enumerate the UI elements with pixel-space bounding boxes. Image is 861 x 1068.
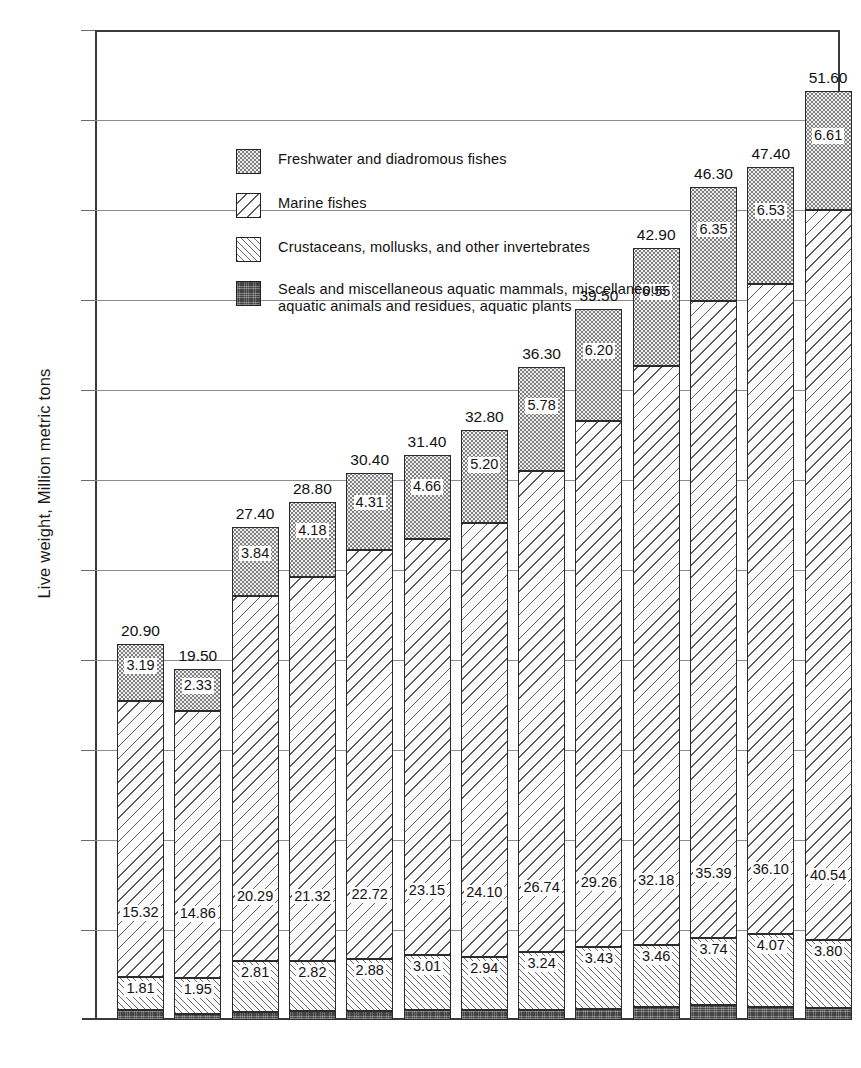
y-axis-tick <box>81 30 95 31</box>
bar-segment-freshwater[interactable]: 4.18 <box>289 502 336 577</box>
bar-column[interactable]: 3.8040.546.6151.601964 <box>805 91 852 1020</box>
bar-segment-freshwater[interactable]: 5.78 <box>518 367 565 471</box>
segment-value-label: 2.33 <box>175 677 220 694</box>
bar-total-label: 31.40 <box>397 433 458 451</box>
bar-segment-marine[interactable]: 20.29 <box>232 596 279 961</box>
bar-segment-marine[interactable]: 24.10 <box>461 523 508 957</box>
bar-segment-misc[interactable] <box>575 1009 622 1020</box>
bar-segment-freshwater[interactable]: 2.33 <box>174 669 221 711</box>
bar-segment-freshwater[interactable]: 3.84 <box>232 527 279 596</box>
legend-swatch-freshwater <box>236 149 261 174</box>
bar-segment-crustaceans[interactable]: 2.82 <box>289 961 336 1012</box>
bar-segment-crustaceans[interactable]: 2.81 <box>232 961 279 1012</box>
segment-value-label: 5.78 <box>519 397 564 414</box>
legend-item-freshwater: Freshwater and diadromous fishes <box>236 149 706 183</box>
segment-value-label: 6.61 <box>806 127 851 144</box>
y-axis-tick <box>81 300 95 301</box>
segment-value-label: 14.86 <box>175 905 220 922</box>
bar-column[interactable]: 3.4329.266.2039.501960 <box>575 309 622 1020</box>
bar-segment-freshwater[interactable]: 3.19 <box>117 644 164 701</box>
bar-segment-marine[interactable]: 26.74 <box>518 471 565 952</box>
bar-segment-crustaceans[interactable]: 3.01 <box>404 955 451 1009</box>
segment-value-label: 5.20 <box>462 456 507 473</box>
bar-column[interactable]: 2.8120.293.8427.401954 <box>232 527 279 1020</box>
bar-column[interactable]: 3.0123.154.6631.401957 <box>404 455 451 1020</box>
bar-total-label: 27.40 <box>225 505 286 523</box>
bar-segment-marine[interactable]: 14.86 <box>174 711 221 978</box>
bar-segment-misc[interactable] <box>690 1005 737 1020</box>
bar-segment-crustaceans[interactable]: 3.80 <box>805 940 852 1008</box>
bar-segment-crustaceans[interactable]: 3.43 <box>575 947 622 1009</box>
bar-segment-marine[interactable]: 15.32 <box>117 701 164 977</box>
bar-segment-crustaceans[interactable]: 2.88 <box>346 959 393 1011</box>
segment-value-label: 32.18 <box>634 872 679 889</box>
bar-segment-misc[interactable] <box>404 1010 451 1020</box>
bar-segment-freshwater[interactable]: 4.31 <box>346 473 393 551</box>
bar-segment-marine[interactable]: 22.72 <box>346 550 393 959</box>
y-axis-line <box>95 30 97 1020</box>
bar-segment-freshwater[interactable]: 5.20 <box>461 430 508 524</box>
bar-segment-misc[interactable] <box>117 1010 164 1020</box>
bar-segment-marine[interactable]: 36.10 <box>747 284 794 934</box>
y-axis-label: Live weight, Million metric tons <box>35 204 54 764</box>
bar-segment-marine[interactable]: 29.26 <box>575 421 622 948</box>
bar-segment-misc[interactable] <box>518 1010 565 1020</box>
segment-value-label: 3.01 <box>405 958 450 975</box>
bar-segment-crustaceans[interactable]: 1.95 <box>174 978 221 1013</box>
legend-label: Seals and miscellaneous aquatic mammals,… <box>278 281 698 314</box>
segment-value-label: 3.80 <box>806 943 851 960</box>
bar-segment-crustaceans[interactable]: 2.94 <box>461 957 508 1010</box>
bar-segment-marine[interactable]: 40.54 <box>805 210 852 940</box>
bar-segment-misc[interactable] <box>174 1014 221 1020</box>
bar-total-label: 19.50 <box>167 647 228 665</box>
bar-column[interactable]: 2.8221.324.1828.801955 <box>289 502 336 1020</box>
y-axis-tick <box>81 750 95 751</box>
bar-segment-marine[interactable]: 21.32 <box>289 577 336 961</box>
bar-column[interactable]: 2.9424.105.2032.801958 <box>461 430 508 1020</box>
bar-segment-marine[interactable]: 32.18 <box>633 366 680 945</box>
bar-total-label: 47.40 <box>740 145 801 163</box>
legend-swatch-crustaceans <box>236 237 261 262</box>
bar-segment-crustaceans[interactable]: 3.74 <box>690 938 737 1005</box>
bar-segment-freshwater[interactable]: 6.61 <box>805 91 852 210</box>
bar-column[interactable]: 4.0736.106.5347.401963 <box>747 167 794 1020</box>
legend-label: Crustaceans, mollusks, and other inverte… <box>278 239 698 256</box>
bar-segment-crustaceans[interactable]: 4.07 <box>747 934 794 1007</box>
segment-value-label: 1.81 <box>118 980 163 997</box>
bar-segment-marine[interactable]: 35.39 <box>690 301 737 938</box>
bar-segment-misc[interactable] <box>747 1007 794 1020</box>
legend-item-crustaceans: Crustaceans, mollusks, and other inverte… <box>236 237 706 271</box>
segment-value-label: 15.32 <box>118 904 163 921</box>
segment-value-label: 3.46 <box>634 948 679 965</box>
bar-segment-misc[interactable] <box>461 1010 508 1020</box>
bar-total-label: 32.80 <box>454 408 515 426</box>
segment-value-label: 22.72 <box>347 886 392 903</box>
bar-segment-freshwater[interactable]: 6.53 <box>747 167 794 285</box>
legend-item-misc: Seals and miscellaneous aquatic mammals,… <box>236 281 706 315</box>
bar-segment-crustaceans[interactable]: 3.24 <box>518 952 565 1010</box>
bar-column[interactable]: 2.8822.724.3130.401956 <box>346 473 393 1020</box>
bar-segment-misc[interactable] <box>346 1011 393 1020</box>
bar-column[interactable]: 1.9514.862.3319.501948 <box>174 669 221 1020</box>
segment-value-label: 20.29 <box>233 888 278 905</box>
bar-column[interactable]: 1.8115.323.1920.901938 <box>117 644 164 1020</box>
bar-segment-marine[interactable]: 23.15 <box>404 539 451 956</box>
bar-column[interactable]: 3.4632.186.5542.901961 <box>633 248 680 1020</box>
legend-swatch-misc <box>236 281 261 306</box>
bar-segment-crustaceans[interactable]: 1.81 <box>117 977 164 1010</box>
bar-segment-misc[interactable] <box>805 1008 852 1020</box>
y-axis-tick <box>81 120 95 121</box>
gridline <box>95 120 840 121</box>
segment-value-label: 23.15 <box>405 882 450 899</box>
segment-value-label: 36.10 <box>748 861 793 878</box>
segment-value-label: 29.26 <box>576 874 621 891</box>
bar-segment-misc[interactable] <box>289 1011 336 1020</box>
bar-column[interactable]: 3.2426.745.7836.301959 <box>518 367 565 1020</box>
bar-segment-misc[interactable] <box>232 1012 279 1020</box>
bar-segment-crustaceans[interactable]: 3.46 <box>633 945 680 1007</box>
bar-segment-freshwater[interactable]: 6.20 <box>575 309 622 421</box>
bar-segment-freshwater[interactable]: 4.66 <box>404 455 451 539</box>
bar-segment-misc[interactable] <box>633 1007 680 1020</box>
segment-value-label: 1.95 <box>175 981 220 998</box>
segment-value-label: 3.74 <box>691 941 736 958</box>
